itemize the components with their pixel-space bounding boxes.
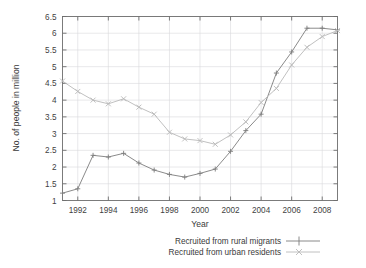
legend-label-urban: Recruited from urban residents xyxy=(169,248,281,257)
x-tick-label: 1998 xyxy=(160,206,179,215)
y-tick-label: 6 xyxy=(52,29,57,38)
legend-label-rural: Recruited from rural migrants xyxy=(175,237,281,246)
y-tick-label: 1.5 xyxy=(45,180,57,189)
x-tick-label: 2008 xyxy=(313,206,332,215)
x-tick-label: 1996 xyxy=(130,206,149,215)
x-axis-tick-labels: 199219941996199820002002200420062008 xyxy=(69,206,332,215)
x-tick-label: 2004 xyxy=(252,206,271,215)
y-tick-label: 2 xyxy=(52,163,57,172)
x-tick-label: 1992 xyxy=(69,206,88,215)
x-tick-label: 2006 xyxy=(283,206,302,215)
x-axis-label: Year xyxy=(191,219,209,229)
y-tick-label: 5 xyxy=(52,63,57,72)
x-tick-label: 1994 xyxy=(99,206,118,215)
x-tick-label: 2000 xyxy=(191,206,210,215)
y-tick-label: 3 xyxy=(52,130,57,139)
line-chart: 199219941996199820002002200420062008 11.… xyxy=(0,0,366,268)
y-tick-label: 1 xyxy=(52,197,57,206)
y-tick-label: 5.5 xyxy=(45,46,57,55)
y-tick-label: 6.5 xyxy=(45,13,57,22)
y-tick-label: 2.5 xyxy=(45,146,57,155)
x-tick-label: 2002 xyxy=(221,206,240,215)
y-tick-label: 3.5 xyxy=(45,113,57,122)
y-axis-label: No. of people in million xyxy=(11,64,21,151)
y-tick-label: 4 xyxy=(52,96,57,105)
chart-container: 199219941996199820002002200420062008 11.… xyxy=(0,0,366,268)
y-tick-label: 4.5 xyxy=(45,79,57,88)
